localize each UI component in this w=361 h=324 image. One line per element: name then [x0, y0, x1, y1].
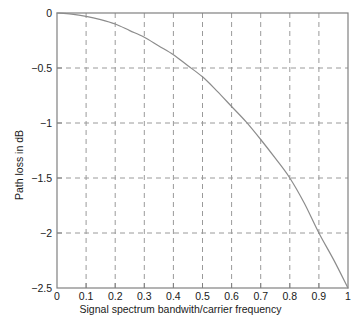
y-tick-label--2.5: −2.5: [8, 282, 52, 294]
path-loss-line-chart: [0, 0, 361, 324]
y-tick-label--0.5: −0.5: [8, 62, 52, 74]
x-tick-label-0: 0: [54, 290, 60, 302]
x-tick-label-0.2: 0.2: [108, 290, 123, 302]
chart-figure: 0 0.1 0.2 0.3 0.4 0.5 0.6 0.7 0.8 0.9 1 …: [0, 0, 361, 324]
x-tick-label-0.5: 0.5: [195, 290, 210, 302]
x-axis-title: Signal spectrum bandwith/carrier frequen…: [0, 303, 361, 315]
y-axis-title: Path loss in dB: [13, 130, 25, 200]
y-tick-label--1: −1: [8, 117, 52, 129]
y-tick-label-0: 0: [8, 7, 52, 19]
x-tick-label-0.8: 0.8: [282, 290, 297, 302]
chart-background: [0, 0, 361, 324]
y-tick-label--2: −2: [8, 227, 52, 239]
x-tick-label-0.6: 0.6: [224, 290, 239, 302]
x-tick-label-0.1: 0.1: [79, 290, 94, 302]
x-tick-label-0.9: 0.9: [312, 290, 327, 302]
x-tick-label-1: 1: [345, 290, 351, 302]
x-tick-label-0.3: 0.3: [137, 290, 152, 302]
x-tick-label-0.7: 0.7: [253, 290, 268, 302]
x-tick-label-0.4: 0.4: [166, 290, 181, 302]
